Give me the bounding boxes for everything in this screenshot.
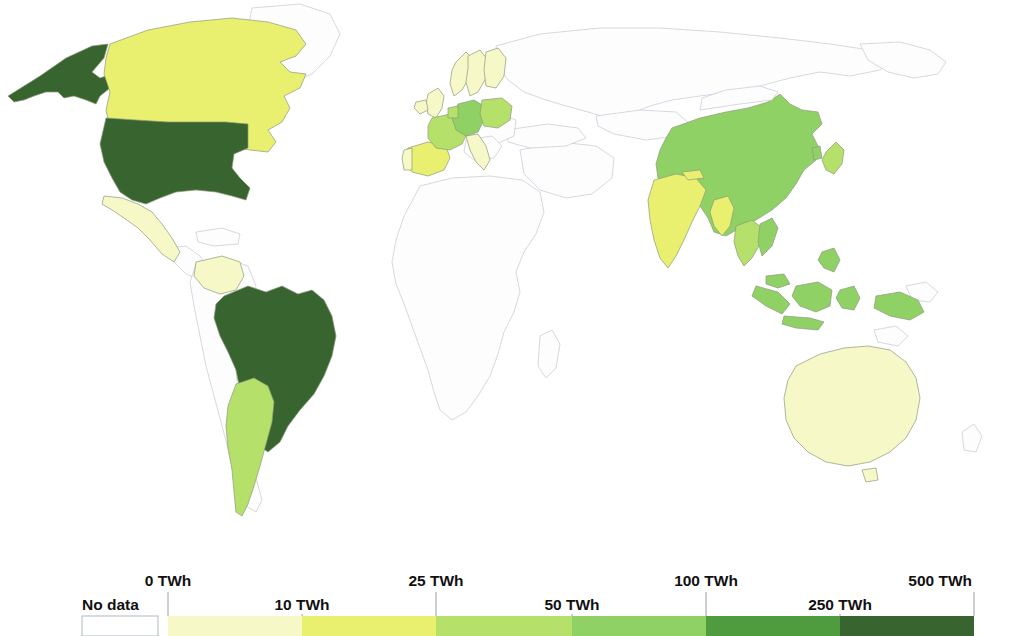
region-vietnam[interactable] bbox=[758, 218, 778, 256]
region-portugal[interactable] bbox=[402, 148, 412, 170]
region-caribbean[interactable] bbox=[196, 228, 240, 246]
legend-tick-250: 250 TWh bbox=[808, 596, 872, 613]
region-java[interactable] bbox=[782, 316, 824, 330]
region-united-states[interactable] bbox=[100, 118, 250, 204]
legend-tick-50: 50 TWh bbox=[544, 596, 599, 613]
region-mexico[interactable] bbox=[102, 196, 180, 262]
legend-swatch-25-50[interactable] bbox=[436, 616, 572, 636]
region-sumatra[interactable] bbox=[752, 286, 790, 314]
legend-svg: 0 TWh 25 TWh 100 TWh 500 TWh No data 10 … bbox=[0, 556, 1010, 636]
region-tasmania[interactable] bbox=[862, 468, 878, 482]
region-madagascar[interactable] bbox=[538, 330, 560, 378]
region-new-zealand[interactable] bbox=[962, 424, 982, 452]
world-map-figure: 0 TWh 25 TWh 100 TWh 500 TWh No data 10 … bbox=[0, 0, 1010, 636]
legend-swatch-250-500[interactable] bbox=[840, 616, 974, 636]
legend-swatch-0-10[interactable] bbox=[168, 616, 302, 636]
region-australia[interactable] bbox=[784, 346, 920, 466]
region-india[interactable] bbox=[648, 174, 706, 268]
region-thailand[interactable] bbox=[734, 220, 762, 266]
region-korea[interactable] bbox=[812, 146, 822, 160]
map-canvas[interactable] bbox=[0, 0, 1010, 556]
region-malaysia[interactable] bbox=[766, 274, 790, 288]
region-alaska[interactable] bbox=[8, 44, 112, 104]
region-ireland[interactable] bbox=[414, 100, 428, 114]
region-japan[interactable] bbox=[822, 142, 844, 174]
region-siberia-east[interactable] bbox=[860, 42, 946, 78]
legend-swatch-no-data[interactable] bbox=[82, 616, 158, 636]
legend-swatch-50-100[interactable] bbox=[572, 616, 706, 636]
legend-tick-0: 0 TWh bbox=[145, 572, 192, 589]
legend-tick-500: 500 TWh bbox=[908, 572, 972, 589]
region-sulawesi[interactable] bbox=[836, 286, 860, 310]
legend-swatch-10-25[interactable] bbox=[302, 616, 436, 636]
world-map-svg[interactable] bbox=[0, 0, 1010, 556]
legend-no-data-label: No data bbox=[82, 596, 139, 613]
legend-tick-25: 25 TWh bbox=[408, 572, 463, 589]
region-united-kingdom[interactable] bbox=[426, 88, 444, 118]
region-finland[interactable] bbox=[484, 48, 506, 88]
legend-tick-100: 100 TWh bbox=[674, 572, 738, 589]
legend-tick-10: 10 TWh bbox=[274, 596, 329, 613]
region-benelux[interactable] bbox=[448, 106, 458, 118]
map-legend: 0 TWh 25 TWh 100 TWh 500 TWh No data 10 … bbox=[0, 556, 1010, 636]
region-borneo[interactable] bbox=[792, 282, 832, 312]
region-russia[interactable] bbox=[496, 28, 890, 118]
legend-swatch-100-250[interactable] bbox=[706, 616, 840, 636]
region-africa[interactable] bbox=[392, 176, 544, 420]
region-philippines[interactable] bbox=[818, 248, 840, 272]
region-melanesia[interactable] bbox=[874, 326, 908, 346]
